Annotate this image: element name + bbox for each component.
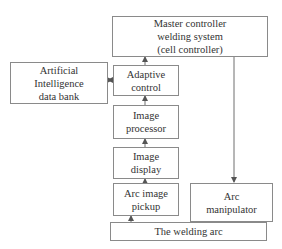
display-line-2: display — [131, 163, 161, 176]
adaptive-control-box: Adaptive control — [113, 65, 179, 96]
master-controller-box: Master controller welding system (cell c… — [112, 16, 268, 57]
master-line-1: Master controller — [154, 17, 227, 30]
ai-data-bank-box: Artificial Intelligence data bank — [10, 62, 108, 104]
welding-arc-label: The welding arc — [154, 225, 222, 238]
ai-line-1: Artificial — [40, 64, 78, 77]
display-line-1: Image — [133, 150, 159, 163]
master-line-3: (cell controller) — [157, 43, 223, 56]
image-display-box: Image display — [113, 147, 179, 179]
adaptive-line-2: control — [131, 81, 161, 94]
processor-line-2: processor — [126, 122, 166, 135]
arc-image-pickup-box: Arc image pickup — [113, 183, 179, 216]
pickup-line-1: Arc image — [124, 187, 168, 200]
arc-manipulator-box: Arc manipulator — [190, 183, 273, 222]
adaptive-line-1: Adaptive — [127, 68, 166, 81]
manipulator-line-2: manipulator — [206, 203, 257, 216]
image-processor-box: Image processor — [113, 105, 179, 139]
processor-line-1: Image — [133, 109, 159, 122]
manipulator-line-1: Arc — [224, 190, 240, 203]
master-line-2: welding system — [157, 30, 223, 43]
pickup-line-2: pickup — [132, 200, 161, 213]
welding-arc-box: The welding arc — [110, 222, 267, 241]
ai-line-3: data bank — [39, 90, 80, 103]
ai-line-2: Intelligence — [34, 77, 84, 90]
